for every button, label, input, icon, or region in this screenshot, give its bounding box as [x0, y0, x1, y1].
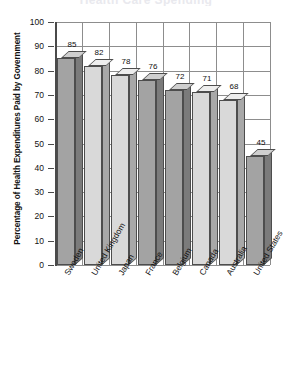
y-axis-title: Percentage of Health Expenditures Paid b…: [13, 14, 22, 264]
y-axis-tick-label: 70: [14, 91, 44, 100]
bar: [192, 92, 210, 265]
y-axis-tick-label: 50: [14, 140, 44, 149]
y-axis-tick-mark: [48, 241, 54, 242]
bar: [219, 100, 237, 265]
y-axis-tick-label: 90: [14, 42, 44, 51]
bar-side-face: [156, 73, 164, 265]
bar-side-face: [237, 93, 245, 265]
bar-side-face: [210, 86, 218, 265]
bar-front-face: [165, 90, 183, 265]
y-axis-tick-mark: [48, 168, 54, 169]
bar-front-face: [219, 100, 237, 265]
y-axis-tick-mark: [48, 71, 54, 72]
y-axis-tick-mark: [48, 265, 54, 266]
y-axis-tick-mark: [48, 22, 54, 23]
y-axis-tick-mark: [48, 192, 54, 193]
bar-front-face: [138, 80, 156, 265]
bar-value-label: 71: [194, 75, 220, 83]
bar: [138, 80, 156, 265]
bar-side-face: [75, 51, 83, 265]
bar-value-label: 76: [140, 63, 166, 71]
y-axis-tick-label: 30: [14, 188, 44, 197]
bar-value-label: 72: [167, 73, 193, 81]
bar-side-face: [102, 59, 110, 265]
y-axis-tick-label: 20: [14, 212, 44, 221]
y-axis-tick-mark: [48, 95, 54, 96]
y-axis-tick-mark: [48, 46, 54, 47]
bar-value-label: 85: [59, 41, 85, 49]
bar-value-label: 68: [221, 83, 247, 91]
y-axis-tick-label: 40: [14, 164, 44, 173]
bar-side-face: [183, 83, 191, 265]
chart-title: Health Care Spending: [0, 0, 292, 6]
bar-series: 8582787672716845: [55, 22, 270, 265]
bar: [84, 66, 102, 265]
y-axis-tick-mark: [48, 216, 54, 217]
bar-value-label: 82: [86, 49, 112, 57]
y-axis-tick-label: 100: [14, 18, 44, 27]
y-axis-tick-label: 0: [14, 261, 44, 270]
bar-front-face: [57, 58, 75, 265]
y-axis-tick-label: 10: [14, 237, 44, 246]
bar-front-face: [192, 92, 210, 265]
y-axis-tick-label: 60: [14, 115, 44, 124]
bar-front-face: [84, 66, 102, 265]
bar-value-label: 78: [113, 58, 139, 66]
bar-side-face: [129, 69, 137, 265]
y-axis-tick-mark: [48, 144, 54, 145]
bar-value-label: 45: [248, 139, 274, 147]
y-axis-tick-label: 80: [14, 67, 44, 76]
bar: [165, 90, 183, 265]
y-axis-tick-mark: [48, 119, 54, 120]
bar: [57, 58, 75, 265]
